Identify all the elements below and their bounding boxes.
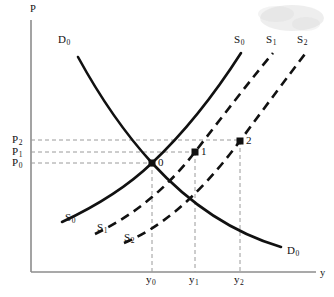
curve-label-s0-start-base: S — [65, 211, 71, 223]
tick-label-y1-base: y — [189, 273, 195, 285]
curve-label-s0-start: S0 — [65, 212, 75, 223]
curve-label-d0-end: D0 — [287, 245, 299, 256]
marker-point-0 — [149, 160, 156, 167]
point-label-0: 0 — [158, 157, 164, 168]
curve-label-s1-start-base: S — [97, 221, 103, 233]
curve-label-s0-end-base: S — [234, 33, 240, 45]
marker-point-1 — [192, 149, 199, 156]
curve-label-s2-start-base: S — [124, 231, 130, 243]
tick-label-p0: P0 — [12, 157, 22, 168]
tick-label-y0: y0 — [146, 274, 156, 285]
curve-label-s1-start: S1 — [97, 222, 107, 233]
tick-label-y0-sub: 0 — [152, 278, 156, 287]
curve-label-d0-top-sub: 0 — [66, 38, 70, 47]
diagram-canvas — [0, 0, 334, 297]
curve-label-d0-end-base: D — [287, 244, 295, 256]
curve-label-s2-end-base: S — [297, 33, 303, 45]
point-label-1: 1 — [201, 146, 207, 157]
axis-label-price: P — [30, 4, 36, 15]
curve-label-d0-top-base: D — [58, 33, 66, 45]
curve-label-s2-start: S2 — [124, 232, 134, 243]
tick-label-p0-base: P — [12, 156, 18, 168]
curve-label-s1-end-base: S — [266, 33, 272, 45]
tick-label-p0-sub: 0 — [19, 161, 23, 170]
curve-label-s2-end: S2 — [297, 34, 307, 45]
curve-label-s2-end-sub: 2 — [304, 38, 308, 47]
curve-label-s0-start-sub: 0 — [72, 216, 76, 225]
curve-label-d0-end-sub: 0 — [295, 249, 299, 258]
tick-label-p2-base: P — [12, 133, 18, 145]
curve-label-s0-end-sub: 0 — [241, 38, 245, 47]
supply-demand-figure: P y P2 P1 P0 y0 y1 y2 D0 D0 S0 S0 S1 S1 — [0, 0, 334, 297]
supply-curve-s2 — [124, 54, 305, 243]
curve-label-s1-end-sub: 1 — [273, 38, 277, 47]
curve-label-d0-top: D0 — [58, 34, 70, 45]
point-label-2: 2 — [246, 135, 252, 146]
tick-label-p2: P2 — [12, 134, 22, 145]
marker-point-2 — [237, 138, 244, 145]
tick-label-y0-base: y — [146, 273, 152, 285]
tick-label-y1-sub: 1 — [195, 278, 199, 287]
curve-label-s2-start-sub: 2 — [131, 236, 135, 245]
scan-artifact — [258, 5, 324, 31]
axis-lines — [31, 20, 316, 272]
tick-label-y2-sub: 2 — [240, 278, 244, 287]
curve-label-s1-start-sub: 1 — [104, 226, 108, 235]
axis-label-quantity: y — [320, 268, 325, 279]
curve-label-s1-end: S1 — [266, 34, 276, 45]
tick-label-y2-base: y — [234, 273, 240, 285]
curve-label-s0-end: S0 — [234, 34, 244, 45]
guide-lines — [31, 140, 240, 272]
tick-label-y2: y2 — [234, 274, 244, 285]
tick-label-y1: y1 — [189, 274, 199, 285]
